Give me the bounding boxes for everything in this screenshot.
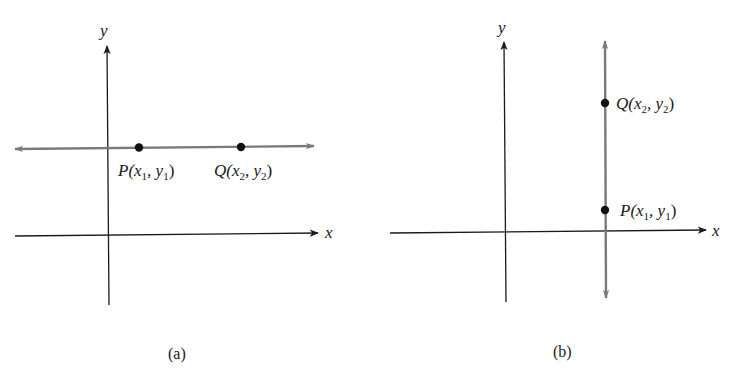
- x-axis: [390, 230, 706, 233]
- point-p-label: P(x1, y1): [117, 161, 174, 182]
- y-axis: [504, 42, 506, 302]
- figure: y x P(x1, y1) Q(x2, y2) (a) y x Q(x2, y2…: [0, 0, 741, 382]
- vertical-line: [605, 41, 606, 298]
- point-p: [601, 206, 609, 214]
- point-p: [135, 143, 143, 151]
- x-axis: [15, 233, 318, 236]
- caption-a: (a): [168, 345, 186, 363]
- point-q: [237, 143, 245, 151]
- point-p-label: P(x1, y1): [619, 201, 676, 222]
- horizontal-line: [15, 146, 314, 149]
- panel-b: y x Q(x2, y2) P(x1, y1) (b): [390, 18, 720, 361]
- y-axis-label: y: [496, 18, 506, 37]
- y-axis-label: y: [98, 21, 108, 40]
- point-q-label: Q(x2, y2): [214, 161, 272, 182]
- point-q: [601, 99, 609, 107]
- caption-b: (b): [553, 343, 572, 361]
- x-axis-label: x: [711, 221, 720, 240]
- y-axis: [107, 46, 109, 305]
- point-q-label: Q(x2, y2): [616, 94, 674, 115]
- x-axis-label: x: [324, 223, 333, 242]
- panel-a: y x P(x1, y1) Q(x2, y2) (a): [15, 21, 333, 363]
